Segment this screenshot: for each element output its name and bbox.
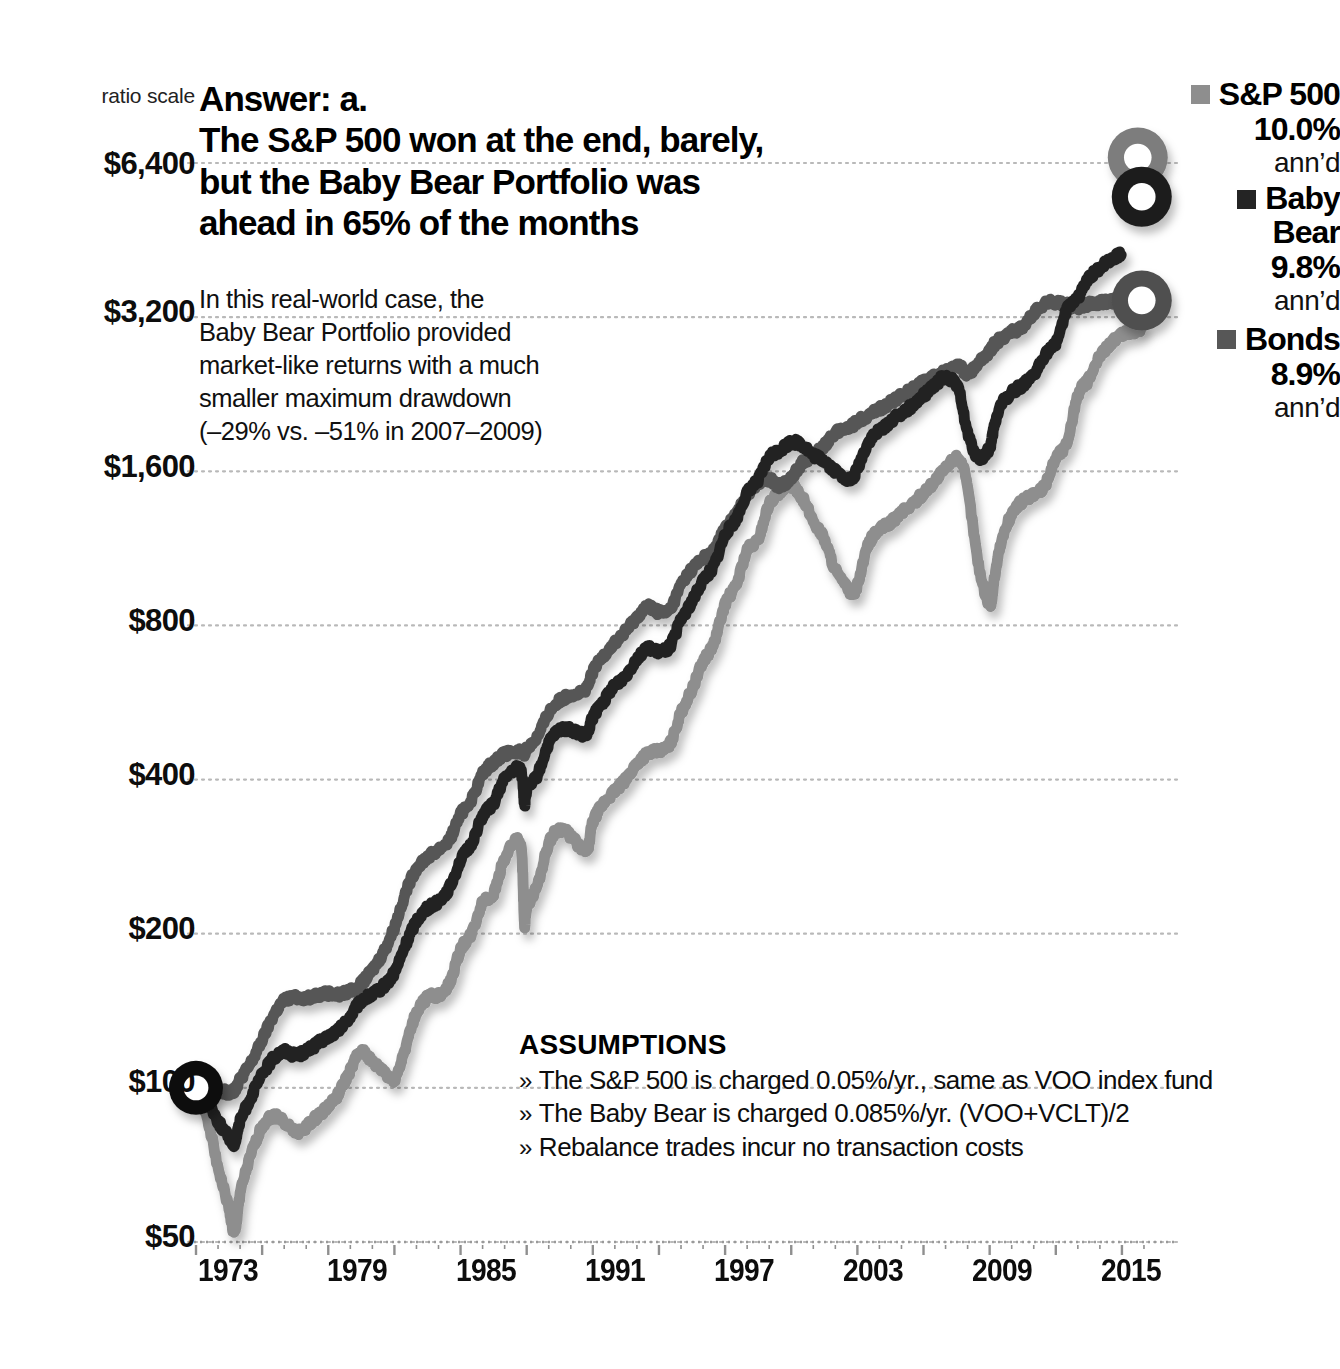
x-tick-label-2009: 2009 [949,1252,1055,1289]
y-tick-label-100: $100 [20,1064,195,1100]
infographic-chart-page: ratio scale $6,400 $3,200 $1,600 $800 $4… [0,0,1340,1369]
endpoint-markers [169,128,1172,1115]
y-tick-label-1600: $1,600 [20,449,195,485]
legend-value-bonds: 8.9% [1108,357,1340,392]
y-tick-label-6400: $6,400 [20,146,195,182]
legend-label-baby-bear: Baby [1265,182,1340,216]
y-tick-label-3200: $3,200 [20,294,195,330]
description-line-3: market-like returns with a much [199,349,599,382]
chart-legend: S&P 500 10.0% ann’d Baby Bear 9.8% ann’d… [1108,78,1340,425]
legend-entry-sp500[interactable]: S&P 500 10.0% ann’d [1108,78,1340,178]
x-tick-label-1991: 1991 [562,1252,668,1289]
legend-annualized-bonds: ann’d [1108,392,1340,423]
x-tick-label-1979: 1979 [304,1252,410,1289]
legend-label-baby-bear-line2: Bear [1108,216,1340,250]
legend-swatch-bonds-icon [1217,330,1236,349]
assumption-bullet-icon: » [519,1099,532,1130]
headline-line-4: ahead in 65% of the months [199,202,939,243]
ratio-scale-label: ratio scale [55,84,195,108]
y-tick-label-800: $800 [20,603,195,639]
description-line-5: (–29% vs. –51% in 2007–2009) [199,415,599,448]
x-tick-label-1985: 1985 [433,1252,539,1289]
assumption-bullet-icon: » [519,1066,532,1097]
assumption-item-3: » Rebalance trades incur no transaction … [519,1131,1199,1164]
legend-value-baby-bear: 9.8% [1108,250,1340,285]
assumption-item-1: » The S&P 500 is charged 0.05%/yr., same… [519,1064,1199,1097]
legend-label-bonds: Bonds [1245,323,1340,357]
headline-line-3: but the Baby Bear Portfolio was [199,161,939,202]
assumption-text-3: Rebalance trades incur no transaction co… [539,1131,1023,1164]
y-tick-label-400: $400 [20,757,195,793]
x-tick-label-2015: 2015 [1078,1252,1184,1289]
assumption-text-2: The Baby Bear is charged 0.085%/yr. (VOO… [539,1097,1129,1130]
headline-line-1: Answer: a. [199,78,939,119]
assumption-bullet-icon: » [519,1133,532,1164]
legend-entry-bonds[interactable]: Bonds 8.9% ann’d [1108,323,1340,423]
description-paragraph: In this real-world case, the Baby Bear P… [199,283,599,447]
description-line-4: smaller maximum drawdown [199,382,599,415]
assumption-item-2: » The Baby Bear is charged 0.085%/yr. (V… [519,1097,1199,1130]
description-line-2: Baby Bear Portfolio provided [199,316,599,349]
x-tick-label-1997: 1997 [691,1252,797,1289]
legend-swatch-baby-bear-icon [1237,190,1256,209]
headline-line-2: The S&P 500 won at the end, barely, [199,119,939,160]
assumption-text-1: The S&P 500 is charged 0.05%/yr., same a… [539,1064,1213,1097]
legend-value-sp500: 10.0% [1108,112,1340,147]
headline: Answer: a. The S&P 500 won at the end, b… [199,78,939,243]
x-tick-label-2003: 2003 [820,1252,926,1289]
description-line-1: In this real-world case, the [199,283,599,316]
assumptions-block: ASSUMPTIONS » The S&P 500 is charged 0.0… [519,1029,1199,1164]
legend-annualized-sp500: ann’d [1108,147,1340,178]
x-tick-label-1973: 1973 [175,1252,281,1289]
y-tick-label-200: $200 [20,911,195,947]
legend-annualized-baby-bear: ann’d [1108,285,1340,316]
legend-swatch-sp500-icon [1191,85,1210,104]
legend-label-sp500: S&P 500 [1219,78,1340,112]
y-tick-label-50: $50 [20,1219,195,1255]
assumptions-title: ASSUMPTIONS [519,1029,1199,1061]
legend-entry-baby-bear[interactable]: Baby Bear 9.8% ann’d [1108,182,1340,316]
